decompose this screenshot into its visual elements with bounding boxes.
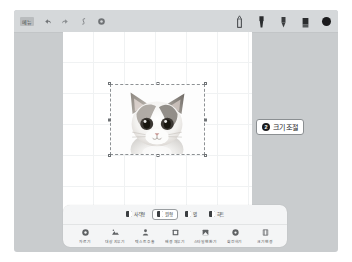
resize-handle-s[interactable] (156, 154, 159, 157)
toolbar-left-group: 메뉴 (20, 10, 106, 32)
mountain-image-icon (111, 228, 120, 237)
tool-resize-label: 크기 변경 (257, 238, 272, 244)
segment-option-1[interactable]: 원형 (152, 209, 178, 220)
segment-label-0: 사각형 (134, 211, 145, 217)
redo-icon[interactable] (61, 17, 70, 26)
note-canvas[interactable]: 2 크기 조절 1 탭 (63, 32, 252, 217)
pen-tool-icon[interactable] (234, 15, 245, 28)
tool-extract[interactable]: 대상 지우기 (100, 228, 130, 245)
star-icon (185, 211, 191, 217)
highlighter-tool-icon[interactable] (278, 15, 289, 28)
crop-icon (81, 228, 90, 237)
resize-handle-n[interactable] (156, 82, 159, 85)
tool-brightness-label: 스타일 변환기 (194, 238, 217, 244)
resize-handle-e[interactable] (204, 118, 207, 121)
image-tool-row: 자르기 대상 지우기 텍스트 추출 (63, 224, 287, 245)
rotate-icon (231, 228, 240, 237)
resize-handle-w[interactable] (108, 118, 111, 121)
tool-rotate-label: 회전하기 (228, 238, 242, 244)
resize-handle-ne[interactable] (204, 82, 207, 85)
segment-option-2[interactable]: 별 (180, 209, 202, 220)
undo-icon[interactable] (43, 17, 52, 26)
tool-crop-label: 자르기 (80, 238, 91, 244)
top-toolbar: 메뉴 (14, 10, 338, 33)
selected-image-object[interactable] (110, 84, 205, 155)
tool-fill-label: 배경 채우기 (166, 238, 185, 244)
segment-label-3: 하트 (217, 211, 225, 217)
tool-rotate[interactable]: 회전하기 (220, 228, 250, 245)
marker-tool-icon[interactable] (256, 15, 267, 28)
tool-extract-label: 대상 지우기 (106, 238, 125, 244)
eraser-tool-icon[interactable] (300, 15, 311, 28)
tool-crop[interactable]: 자르기 (70, 228, 100, 245)
shape-segmented-control: 사각형 원형 별 하트 (63, 209, 287, 220)
toolbar-pen-tools (234, 10, 331, 32)
segment-label-2: 별 (193, 211, 197, 217)
image-edit-panel: 사각형 원형 별 하트 (63, 205, 287, 248)
tool-text[interactable]: 텍스트 추출 (130, 228, 160, 245)
segment-option-0[interactable]: 사각형 (121, 209, 150, 220)
callout-resize: 2 크기 조절 (256, 119, 304, 135)
resize-shape-icon (261, 228, 270, 237)
style-transfer-icon (201, 228, 210, 237)
rectangle-icon (126, 211, 132, 217)
segment-option-3[interactable]: 하트 (204, 209, 230, 220)
resize-handle-sw[interactable] (108, 154, 111, 157)
selection-bounding-box (110, 84, 205, 155)
resize-handle-se[interactable] (204, 154, 207, 157)
menu-button[interactable]: 메뉴 (20, 17, 34, 26)
callout-resize-label: 크기 조절 (273, 122, 298, 132)
italic-text-icon[interactable] (79, 17, 88, 26)
segment-label-1: 원형 (165, 211, 173, 217)
callout-badge-2: 2 (262, 123, 270, 131)
tool-brightness[interactable]: 스타일 변환기 (190, 228, 220, 245)
tool-resize[interactable]: 크기 변경 (250, 228, 280, 245)
tool-fill[interactable]: 배경 채우기 (160, 228, 190, 245)
tool-text-label: 텍스트 추출 (136, 238, 155, 244)
resize-handle-nw[interactable] (108, 82, 111, 85)
heart-icon (209, 211, 215, 217)
person-extract-icon (141, 228, 150, 237)
tablet-device-frame: 메뉴 (14, 10, 338, 252)
color-swatch[interactable] (322, 17, 331, 26)
circle-icon (157, 211, 163, 217)
fill-square-icon (171, 228, 180, 237)
gear-icon[interactable] (97, 17, 106, 26)
